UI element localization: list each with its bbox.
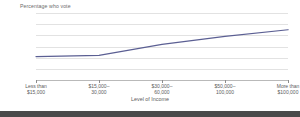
x-axis-tick-label: $15,000–30,000 (68, 83, 130, 96)
x-axis-tick-label: $50,000–100,000 (194, 83, 256, 96)
x-axis-tick-label: More than$100,000 (257, 83, 300, 96)
line-series (36, 13, 288, 80)
x-axis-tick-label: Less than$15,000 (5, 83, 67, 96)
bottom-border-band (0, 111, 300, 117)
x-axis-title: Level of Income (0, 96, 300, 102)
chart-title: Percentage who vote (20, 3, 71, 9)
left-margin-band (0, 0, 2, 117)
x-axis-tick-label: $30,000–60,000 (131, 83, 193, 96)
series-line-percentage-who-vote (36, 30, 288, 57)
plot-area: 90%80%70%60%50%40%30% Less than$15,000$1… (36, 13, 288, 80)
chart-figure: Percentage who vote 90%80%70%60%50%40%30… (0, 0, 300, 117)
